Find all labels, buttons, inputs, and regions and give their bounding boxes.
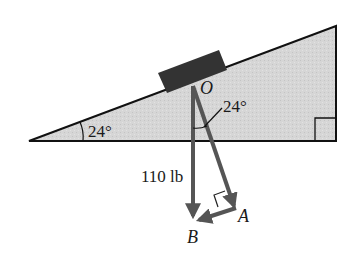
incline-angle-label: 24°: [88, 122, 112, 141]
point-O-label: O: [200, 78, 213, 98]
vector-angle-label: 24°: [223, 97, 247, 116]
parallel-component-vector: [199, 208, 236, 220]
point-B-label: B: [187, 227, 198, 247]
right-angle-marker-A: [214, 191, 225, 207]
weight-label: 110 lb: [141, 167, 183, 186]
inclined-plane-diagram: 24° 24° O A B 110 lb: [0, 0, 350, 263]
point-A-label: A: [237, 206, 250, 226]
